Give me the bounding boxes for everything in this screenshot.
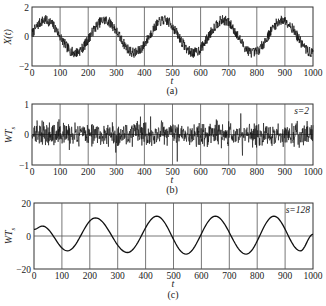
x-tick-label: 700 [222,167,237,177]
x-tick-label: 800 [250,271,265,281]
x-tick-label: 600 [193,68,208,78]
panel-a-xt-signal: −202 01002003004005006007008009001000 X(… [2,3,323,98]
panel-c-wt-scale-128: −20020 01002003004005006007008009001000 … [3,199,323,302]
x-tick-label: 300 [109,68,124,78]
panel-c-caption: (c) [167,289,178,301]
panel-a-y-ticks: −202 [19,3,29,72]
x-tick-label: 400 [138,271,153,281]
y-tick-label: 0 [24,32,29,42]
x-tick-label: 0 [30,167,35,177]
y-tick-label: −20 [16,265,31,275]
panel-c-x-ticks: 01002003004005006007008009001000 [32,271,323,281]
figure: −202 01002003004005006007008009001000 X(… [0,0,326,306]
panel-a-x-ticks: 01002003004005006007008009001000 [30,68,323,78]
panel-c-scale-annotation: s=128 [286,205,311,215]
x-tick-label: 300 [111,271,126,281]
x-tick-label: 900 [278,68,293,78]
y-tick-label: 0 [24,130,29,140]
x-tick-label: 200 [81,167,96,177]
panel-a-y-label: X(t) [2,29,14,46]
x-tick-label: 800 [250,68,265,78]
panel-b-scale-annotation: s=2 [294,106,309,116]
x-tick-label: 600 [193,167,208,177]
x-tick-label: 400 [137,167,152,177]
x-tick-label: 200 [83,271,98,281]
x-tick-label: 900 [278,167,293,177]
x-tick-label: 700 [222,68,237,78]
x-tick-label: 200 [81,68,96,78]
y-tick-label: 0 [26,232,31,242]
x-tick-label: 100 [53,167,68,177]
x-tick-label: 600 [194,271,209,281]
panel-c-y-ticks: −20020 [16,199,31,275]
x-tick-label: 300 [109,167,124,177]
x-tick-label: 700 [222,271,237,281]
panel-a-caption: (a) [166,85,177,97]
y-tick-label: −2 [19,62,29,72]
x-tick-label: 1000 [304,167,323,177]
panel-b-caption: (b) [166,184,178,196]
panel-b-y-ticks: −101 [19,100,29,171]
y-tick-label: 20 [22,199,32,209]
y-tick-label: −1 [19,161,29,171]
panel-c-x-label: t [172,278,175,289]
x-tick-label: 100 [55,271,70,281]
x-tick-label: 800 [250,167,265,177]
x-tick-label: 1000 [304,68,323,78]
y-tick-label: 2 [24,3,29,13]
x-tick-label: 0 [30,68,35,78]
x-tick-label: 100 [53,68,68,78]
panel-b-x-ticks: 01002003004005006007008009001000 [30,167,323,177]
x-tick-label: 400 [137,68,152,78]
x-tick-label: 0 [32,271,37,281]
x-tick-label: 1000 [304,271,323,281]
x-tick-label: 900 [278,271,293,281]
panel-c-y-label: WTs [3,227,17,244]
panel-b-y-label: WTs [3,126,17,143]
y-tick-label: 1 [24,100,29,110]
panel-b-wt-scale-2: −101 01002003004005006007008009001000 WT… [3,100,323,197]
